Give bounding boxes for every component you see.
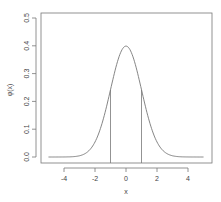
x-tick-label: -4: [61, 175, 67, 182]
x-axis: -4-2024: [61, 168, 190, 182]
density-curve: [49, 46, 204, 157]
y-axis-label: φ(x): [6, 84, 14, 97]
x-tick-label: -2: [92, 175, 98, 182]
x-axis-label: x: [124, 188, 128, 195]
y-tick-label: 0.3: [23, 69, 30, 79]
density-plot: 0.00.10.20.30.40.5 -4-2024 x φ(x): [0, 0, 221, 202]
sd-markers: [111, 90, 142, 163]
y-tick-label: 0.1: [23, 124, 30, 134]
x-tick-label: 0: [124, 175, 128, 182]
y-axis: 0.00.10.20.30.40.5: [23, 13, 36, 162]
y-tick-label: 0.0: [23, 152, 30, 162]
y-tick-label: 0.4: [23, 41, 30, 51]
x-tick-label: 2: [155, 175, 159, 182]
y-tick-label: 0.5: [23, 13, 30, 23]
plot-box: [41, 13, 212, 163]
y-tick-label: 0.2: [23, 96, 30, 106]
x-tick-label: 4: [186, 175, 190, 182]
